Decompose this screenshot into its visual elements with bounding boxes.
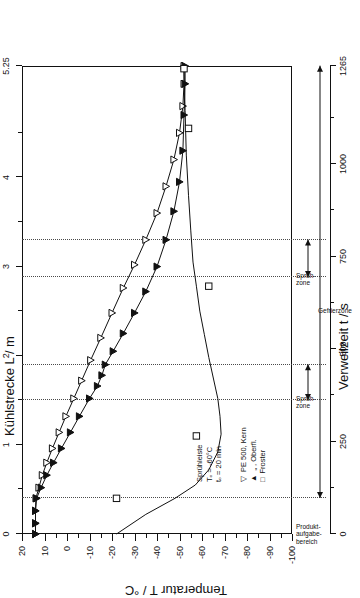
data-point-marker — [56, 429, 63, 436]
data-point-marker — [110, 348, 117, 355]
data-point-marker — [88, 357, 95, 364]
curve-0 — [36, 66, 185, 534]
legend-item-kern: ▽ PE 500, Kern — [240, 427, 248, 482]
data-point-marker — [63, 413, 70, 420]
data-point-marker — [44, 472, 51, 479]
legend-label-oberflaeche: „ , Oberfl. — [250, 439, 258, 470]
legend-item-froster: □ Froster — [259, 427, 267, 482]
data-point-marker — [143, 236, 150, 243]
data-point-marker — [193, 433, 199, 439]
legend-marker-triangle-down-filled-icon: ▲ — [250, 475, 258, 482]
data-point-marker — [87, 395, 94, 402]
data-point-marker — [38, 484, 45, 491]
condition-sprayline: Sprühleiste — [196, 444, 204, 482]
data-point-marker — [113, 495, 119, 501]
data-point-marker — [67, 429, 74, 436]
legend-label-froster: Froster — [259, 450, 267, 474]
data-point-marker — [94, 382, 101, 389]
data-point-marker — [71, 395, 78, 402]
legend-marker-square-open-icon: □ — [259, 477, 267, 482]
legend-label-kern: PE 500, Kern — [240, 427, 248, 472]
data-point-marker — [44, 459, 51, 466]
data-point-marker — [51, 459, 58, 466]
data-point-marker — [102, 361, 109, 368]
data-point-marker — [154, 263, 161, 270]
data-point-marker — [98, 334, 105, 341]
curve-1 — [36, 66, 186, 534]
y2-axis-title: Verweilzeit t / s — [336, 303, 351, 390]
legend-marker-triangle-down-open-icon: ▽ — [240, 476, 248, 482]
data-point-marker — [181, 65, 187, 71]
data-point-marker — [109, 309, 116, 316]
condition-time: tₒ = 20 min — [215, 444, 223, 482]
data-point-marker — [143, 288, 150, 295]
data-point-marker — [132, 309, 139, 316]
conditions-block: Sprühleiste Tₒ = -60°C tₒ = 20 min — [196, 444, 223, 482]
x-axis-title-text: Temperatur T / °C — [125, 583, 227, 598]
data-point-marker — [58, 445, 65, 452]
data-point-marker — [185, 125, 191, 131]
data-point-marker — [154, 209, 161, 216]
data-point-marker — [76, 413, 83, 420]
y-axis-title: Kühlstrecke L / m — [2, 336, 17, 436]
data-point-marker — [120, 284, 127, 291]
condition-temperature: Tₒ = -60°C — [206, 444, 214, 482]
data-point-marker — [120, 330, 127, 337]
legend-item-oberflaeche: ▲ „ , Oberfl. — [250, 427, 258, 482]
data-point-marker — [49, 445, 56, 452]
data-point-marker — [206, 283, 212, 289]
data-point-marker — [132, 261, 139, 268]
data-point-marker — [79, 377, 86, 384]
legend: ▽ PE 500, Kern ▲ „ , Oberfl. □ Froster — [240, 427, 267, 482]
